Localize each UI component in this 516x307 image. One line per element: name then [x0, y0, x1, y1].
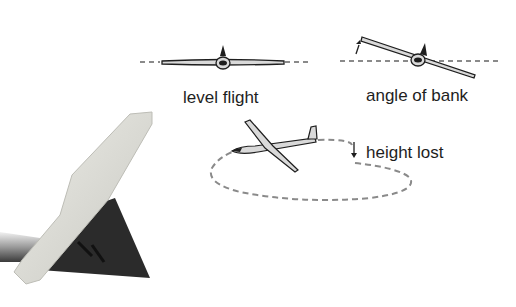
- diagram-canvas: level flight angle of bank height lost: [0, 0, 516, 307]
- height-lost-label: height lost: [366, 143, 444, 163]
